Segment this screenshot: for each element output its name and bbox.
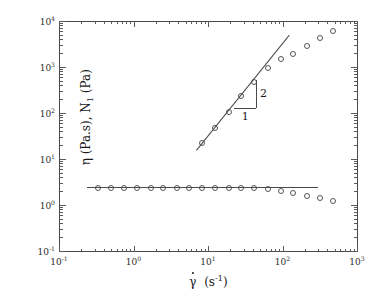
x-tick-label: 100 xyxy=(119,256,149,267)
triangle-horizontal-leg xyxy=(234,108,256,109)
data-point xyxy=(265,65,271,71)
y-tick-label: 104 xyxy=(25,16,55,27)
data-point xyxy=(290,51,296,57)
triangle-rise-label: 2 xyxy=(260,88,267,99)
zero-shear-viscosity-plateau xyxy=(87,187,318,188)
x-tick-label: 10-1 xyxy=(44,256,74,267)
y-axis-title: η (Pa.s), N1 (Pa) xyxy=(79,47,95,187)
x-tick-label: 101 xyxy=(193,256,223,267)
x-axis-title: γ (s-1) xyxy=(59,273,358,289)
figure-container: 10-110010110210310410-1100101102103 2 1 … xyxy=(0,0,382,303)
x-tick-label: 102 xyxy=(268,256,298,267)
data-point xyxy=(304,43,310,49)
triangle-vertical-leg xyxy=(256,80,257,108)
y-tick-label: 101 xyxy=(25,154,55,165)
y-tick-label: 103 xyxy=(25,62,55,73)
triangle-run-label: 1 xyxy=(242,111,249,122)
x-tick-label: 103 xyxy=(342,256,372,267)
data-point xyxy=(278,56,284,62)
y-tick-label: 102 xyxy=(25,108,55,119)
y-tick-label: 100 xyxy=(25,200,55,211)
data-point xyxy=(317,35,323,41)
series-2-markers xyxy=(59,21,358,252)
plot-area: 10-110010110210310410-1100101102103 2 1 … xyxy=(59,21,358,252)
data-point xyxy=(330,28,336,34)
